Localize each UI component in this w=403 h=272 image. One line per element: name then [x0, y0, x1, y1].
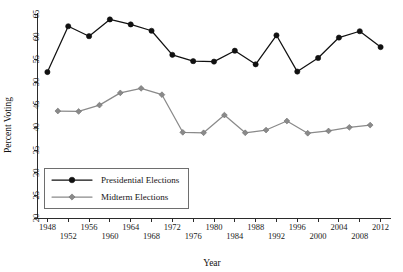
data-point-1-1962	[117, 90, 123, 96]
data-point-0-1976	[191, 59, 196, 64]
y-axis-title: Percent Voting	[3, 97, 13, 153]
data-point-0-1988	[253, 62, 258, 67]
y-tick-label-45: 45	[31, 100, 41, 109]
data-point-1-1970	[159, 92, 165, 98]
x-tick-label-1960: 1960	[101, 231, 118, 241]
chart-legend: Presidential ElectionsMidterm Elections	[44, 168, 188, 208]
y-tick-label-40: 40	[31, 123, 41, 132]
data-point-0-1992	[274, 33, 279, 38]
data-point-0-1948	[45, 69, 50, 74]
y-axis: 20253035404550556065	[31, 10, 41, 223]
line-chart: 20253035404550556065 1948195219561960196…	[0, 0, 403, 272]
data-point-1-2010	[367, 122, 373, 128]
y-tick-label-60: 60	[31, 32, 41, 41]
x-tick-label-1956: 1956	[81, 222, 98, 232]
x-tick-label-1972: 1972	[164, 222, 181, 232]
x-tick-label-1988: 1988	[247, 222, 264, 232]
x-tick-label-1948: 1948	[39, 222, 56, 232]
y-tick-label-55: 55	[31, 55, 41, 64]
data-point-1-1950	[55, 108, 61, 114]
x-tick-label-1992: 1992	[268, 231, 285, 241]
chart-container: 20253035404550556065 1948195219561960196…	[0, 0, 403, 272]
x-tick-label-1976: 1976	[185, 231, 202, 241]
data-point-0-2008	[357, 29, 362, 34]
y-tick-label-25: 25	[31, 191, 41, 200]
data-point-0-1960	[107, 17, 112, 22]
x-tick-label-1952: 1952	[60, 231, 77, 241]
data-point-1-1990	[263, 127, 269, 133]
legend-label-0: Presidential Elections	[101, 175, 180, 185]
data-point-0-1972	[170, 52, 175, 57]
data-point-0-1956	[86, 34, 91, 39]
data-point-0-2012	[378, 44, 383, 49]
x-tick-label-2004: 2004	[330, 222, 348, 232]
data-point-1-1994	[284, 118, 290, 124]
data-point-1-2002	[326, 128, 332, 134]
data-point-0-1984	[232, 48, 237, 53]
data-series-group	[45, 17, 383, 136]
data-point-1-2006	[346, 124, 352, 130]
x-tick-label-2008: 2008	[351, 231, 368, 241]
data-point-1-1974	[180, 129, 186, 135]
x-axis-title: Year	[203, 258, 221, 268]
series-line-1	[58, 88, 370, 133]
data-point-0-1964	[128, 22, 133, 27]
x-tick-label-2000: 2000	[310, 231, 327, 241]
data-point-0-2004	[336, 35, 341, 40]
data-point-1-1998	[305, 130, 311, 136]
x-tick-label-2012: 2012	[372, 222, 389, 232]
data-point-1-1966	[138, 85, 144, 91]
x-axis: 1948195219561960196419681972197619801984…	[37, 218, 391, 241]
x-tick-label-1964: 1964	[122, 222, 140, 232]
y-tick-label-50: 50	[31, 78, 41, 87]
data-point-0-1968	[149, 28, 154, 33]
x-tick-label-1980: 1980	[206, 222, 223, 232]
legend-marker-0	[69, 177, 75, 183]
data-point-1-1954	[76, 109, 82, 115]
x-tick-label-1984: 1984	[226, 231, 244, 241]
legend-label-1: Midterm Elections	[101, 192, 169, 202]
y-tick-label-35: 35	[31, 146, 41, 155]
data-point-0-2000	[316, 55, 321, 60]
x-tick-label-1968: 1968	[143, 231, 160, 241]
y-tick-label-65: 65	[31, 10, 41, 19]
data-point-0-1952	[66, 24, 71, 29]
x-tick-label-1996: 1996	[289, 222, 306, 232]
data-point-1-1958	[97, 102, 103, 108]
data-point-0-1980	[211, 59, 216, 64]
data-point-0-1996	[295, 69, 300, 74]
y-tick-label-30: 30	[31, 168, 41, 177]
